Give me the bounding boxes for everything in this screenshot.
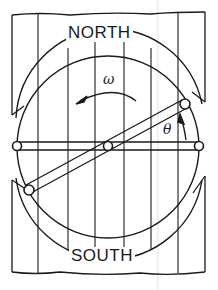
theta-arrow-icon bbox=[178, 114, 186, 140]
theta-label: θ bbox=[163, 122, 171, 136]
pivot-rod-top bbox=[180, 99, 190, 109]
pivot-rod-bottom bbox=[24, 185, 34, 195]
pivots bbox=[13, 99, 204, 195]
pivot-right bbox=[195, 142, 204, 151]
omega-arrow-icon bbox=[76, 93, 136, 105]
omega-label: ω bbox=[103, 72, 114, 86]
pivot-left bbox=[13, 142, 22, 151]
pivot-center bbox=[104, 142, 113, 151]
north-label: NORTH bbox=[66, 24, 133, 41]
south-label: SOUTH bbox=[69, 247, 135, 264]
